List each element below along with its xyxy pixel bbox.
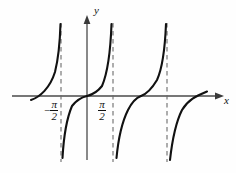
fraction-numerator: π [98,99,106,110]
tangent-branch-3-lower [117,96,142,158]
x-axis-label: x [224,94,229,106]
minus-sign: − [44,105,50,116]
y-axis [84,15,91,160]
x-axis-arrowhead [215,93,224,100]
fraction-denominator: 2 [98,111,106,122]
tangent-branch-2-upper [87,24,112,96]
x-tick-label-positive-half-pi: π2 [98,99,106,122]
tangent-curve-group [31,24,207,160]
fraction-numerator: π [50,99,58,110]
fraction-denominator: 2 [50,111,58,122]
y-axis-arrowhead [84,15,91,24]
tangent-function-figure: −π2 π2 y x [0,0,236,173]
asymptote-group [61,23,167,162]
tangent-branch-1 [31,24,61,100]
x-tick-label-negative-half-pi: −π2 [44,99,58,122]
tangent-branch-4 [170,92,207,161]
fraction-neg-half-pi: π2 [50,99,58,122]
fraction-pos-half-pi: π2 [98,99,106,122]
tangent-branch-2-lower [63,96,88,158]
y-axis-label: y [94,4,99,16]
plot-canvas [0,0,236,173]
tangent-branch-3-upper [141,24,166,96]
